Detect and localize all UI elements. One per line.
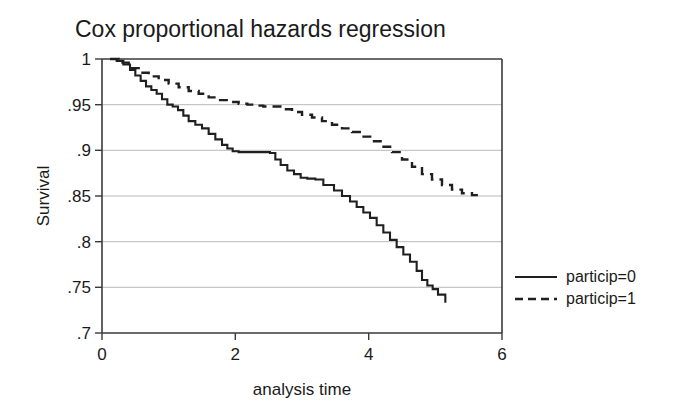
legend-label: particip=0 bbox=[566, 268, 636, 285]
gridlines bbox=[102, 105, 502, 288]
y-tick-label: .85 bbox=[67, 187, 91, 206]
series-line-solid bbox=[110, 59, 445, 303]
data-series-group bbox=[110, 59, 482, 303]
x-tick-label: 6 bbox=[497, 345, 506, 364]
y-tick-label: .75 bbox=[67, 278, 91, 297]
x-axis-ticks: 0246 bbox=[97, 333, 506, 364]
y-tick-label: .8 bbox=[77, 233, 91, 252]
legend-label: particip=1 bbox=[566, 290, 636, 307]
survival-plot-svg: Cox proportional hazards regression .7.7… bbox=[0, 0, 681, 410]
chart-figure: Cox proportional hazards regression .7.7… bbox=[0, 0, 681, 410]
y-tick-label: .7 bbox=[77, 324, 91, 343]
chart-legend: particip=0particip=1 bbox=[515, 268, 636, 307]
y-axis-title: Survival bbox=[34, 166, 53, 226]
x-tick-label: 0 bbox=[97, 345, 106, 364]
x-tick-label: 2 bbox=[231, 345, 240, 364]
y-tick-label: .95 bbox=[67, 96, 91, 115]
x-tick-label: 4 bbox=[364, 345, 373, 364]
y-tick-label: 1 bbox=[82, 50, 91, 69]
y-tick-label: .9 bbox=[77, 141, 91, 160]
y-axis-ticks: .7.75.8.85.9.951 bbox=[67, 50, 102, 343]
chart-title: Cox proportional hazards regression bbox=[75, 16, 446, 42]
x-axis-title: analysis time bbox=[253, 380, 351, 399]
